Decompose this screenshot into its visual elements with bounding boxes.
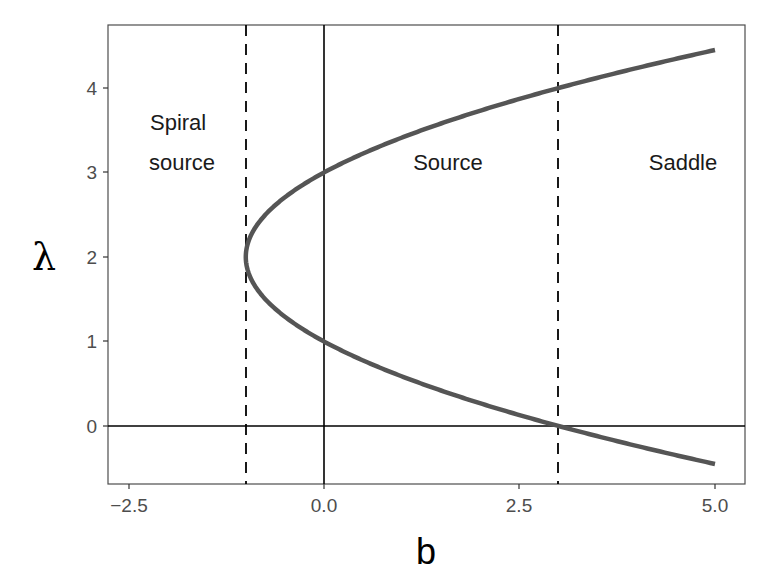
y-tick-label: 1 (86, 331, 97, 352)
y-tick-label: 0 (86, 416, 97, 437)
region-label-spiral-source-line2: source (149, 150, 215, 175)
x-tick-label: 5.0 (702, 495, 728, 516)
x-axis: −2.5 0.0 2.5 5.0 (110, 484, 728, 516)
x-tick-label: −2.5 (110, 495, 148, 516)
x-tick-label: 0.0 (311, 495, 337, 516)
plot-panel (108, 25, 745, 484)
y-tick-label: 3 (86, 162, 97, 183)
region-label-saddle: Saddle (649, 150, 718, 175)
bifurcation-chart: 0 1 2 3 4 −2.5 0.0 2.5 5.0 b λ Spiral so… (0, 0, 773, 586)
x-tick-label: 2.5 (506, 495, 532, 516)
y-tick-label: 2 (86, 247, 97, 268)
region-label-spiral-source: Spiral (150, 110, 206, 135)
y-axis-title: λ (32, 235, 56, 279)
y-axis: 0 1 2 3 4 (86, 78, 108, 437)
x-axis-title: b (416, 531, 436, 572)
y-tick-label: 4 (86, 78, 97, 99)
region-label-source: Source (413, 150, 483, 175)
